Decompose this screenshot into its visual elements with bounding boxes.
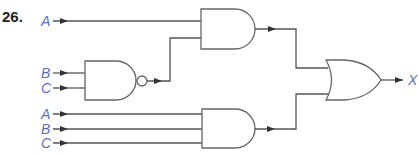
arrow-icon xyxy=(267,126,275,132)
and-gate-bottom-icon xyxy=(202,109,255,148)
arrow-icon xyxy=(154,78,162,84)
nand-gate-icon xyxy=(85,61,147,100)
output-arrow-icon xyxy=(395,77,403,83)
arrow-icon xyxy=(268,26,276,32)
input-arrow-icons xyxy=(60,18,68,146)
or-gate-icon xyxy=(326,60,381,100)
circuit-svg xyxy=(0,0,419,155)
and-bottom-output-wire xyxy=(255,94,328,129)
logic-circuit-diagram: 26. A B C A B C X xyxy=(0,0,419,155)
and-gate-top-icon xyxy=(201,9,255,49)
and-top-output-wire xyxy=(255,29,328,68)
nand-output-wire xyxy=(147,38,201,81)
